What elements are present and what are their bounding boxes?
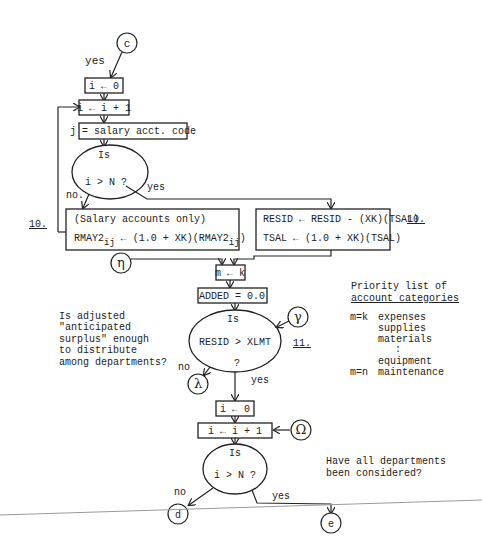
svg-text:i > N ?: i > N ?: [214, 470, 256, 481]
connector-c[interactable]: c: [117, 33, 137, 53]
svg-text:m ← k: m ← k: [215, 268, 245, 279]
svg-text:Priority list of: Priority list of: [351, 281, 447, 292]
svg-text:surplus" enough: surplus" enough: [59, 334, 149, 345]
svg-text:RESID ← RESID - (XK)(TSAL): RESID ← RESID - (XK)(TSAL): [263, 214, 419, 225]
svg-text:yes: yes: [251, 375, 269, 386]
svg-text:i ← i + 1: i ← i + 1: [208, 426, 262, 437]
svg-text:account categories: account categories: [351, 293, 459, 304]
note-departments: Have all departments been considered?: [326, 456, 446, 479]
box-init-i: i ← 0: [85, 78, 123, 93]
svg-text:m=k: m=k: [350, 312, 368, 323]
note-surplus: Is adjusted "anticipated surplus" enough…: [59, 311, 167, 368]
svg-text:been considered?: been considered?: [326, 468, 422, 479]
svg-text:Ω: Ω: [296, 422, 307, 437]
box-init-i-2: i ← 0: [216, 401, 254, 416]
svg-text:RESID > XLMT: RESID > XLMT: [199, 337, 271, 348]
svg-text:i ← 0: i ← 0: [89, 81, 119, 92]
svg-text:i ← i + 1: i ← i + 1: [77, 103, 131, 114]
connector-lambda[interactable]: λ: [188, 374, 208, 394]
svg-text:i ← 0: i ← 0: [220, 404, 250, 415]
svg-text:e: e: [328, 519, 334, 530]
box-salary-accounts: (Salary accounts only) RMAY2ij ← (1.0 + …: [66, 209, 246, 250]
svg-text:materials: materials: [378, 334, 432, 345]
step-label: 10.: [407, 214, 425, 225]
svg-text:no: no: [178, 362, 190, 373]
svg-text:ADDED = 0.0: ADDED = 0.0: [199, 291, 265, 302]
svg-text:among departments?: among departments?: [59, 357, 167, 368]
connector-eta[interactable]: η: [111, 253, 131, 273]
step-label: 11.: [293, 338, 311, 349]
box-salary-code: j = salary acct. code: [70, 123, 196, 139]
connector-label: c: [124, 38, 131, 50]
decision-resid-greater-xlmt: Is RESID > XLMT ?: [189, 310, 281, 372]
svg-text:yes: yes: [147, 182, 165, 193]
box-resid-tsal: RESID ← RESID - (XK)(TSAL) TSAL ← (1.0 +…: [256, 209, 419, 250]
svg-text:Have all departments: Have all departments: [326, 456, 446, 467]
page-edge-line: [0, 500, 482, 515]
svg-text:maintenance: maintenance: [378, 367, 444, 378]
box-m-k: m ← k: [215, 265, 245, 280]
svg-text:Is: Is: [98, 150, 110, 161]
box-increment-i-2: i ← i + 1: [198, 423, 272, 438]
svg-text:γ: γ: [294, 309, 302, 324]
edge-label-yes: yes: [85, 55, 105, 67]
flowchart: c yes i ← 0 i ← i + 1 j = salary acct. c…: [0, 0, 482, 557]
svg-text:TSAL ← (1.0 + XK)(TSAL): TSAL ← (1.0 + XK)(TSAL): [263, 233, 401, 244]
svg-text:equipment: equipment: [378, 356, 432, 367]
svg-text:no.: no.: [66, 190, 84, 201]
svg-text:(Salary accounts only): (Salary accounts only): [74, 214, 206, 225]
svg-text:i > N ?: i > N ?: [85, 177, 127, 188]
svg-text:η: η: [117, 255, 125, 270]
connector-gamma[interactable]: γ: [288, 307, 308, 327]
svg-text:Is: Is: [229, 448, 241, 459]
svg-text:no: no: [174, 487, 186, 498]
svg-text:to distribute: to distribute: [59, 345, 137, 356]
connector-d[interactable]: d: [168, 504, 188, 524]
connector-omega[interactable]: Ω: [291, 420, 311, 440]
svg-text:Is adjusted: Is adjusted: [59, 311, 125, 322]
svg-text:λ: λ: [194, 376, 202, 391]
priority-list: Priority list of account categories m=k …: [350, 281, 459, 378]
svg-text:d: d: [175, 510, 181, 521]
decision-all-departments: Is i > N ?: [203, 444, 267, 494]
svg-text:"anticipated: "anticipated: [59, 322, 131, 333]
svg-text:supplies: supplies: [378, 323, 426, 334]
svg-text:m=n: m=n: [350, 367, 368, 378]
svg-text:?: ?: [234, 358, 240, 369]
svg-text:j = salary acct. code: j = salary acct. code: [70, 126, 196, 137]
svg-text:expenses: expenses: [378, 312, 426, 323]
box-added: ADDED = 0.0: [198, 288, 267, 303]
box-increment-i: i ← i + 1: [77, 100, 131, 115]
svg-text:yes: yes: [272, 491, 290, 502]
svg-text:Is: Is: [227, 314, 239, 325]
connector-e[interactable]: e: [321, 513, 341, 533]
step-label: 10.: [29, 219, 47, 230]
svg-text::: :: [395, 344, 401, 355]
